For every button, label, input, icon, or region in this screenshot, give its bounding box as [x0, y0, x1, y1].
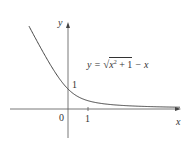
- y-axis-arrow-icon: [66, 22, 70, 28]
- eq-lhs: y =: [87, 59, 103, 70]
- origin-label: 0: [59, 113, 64, 123]
- eq-tail: − x: [132, 59, 148, 70]
- eq-plus-one: + 1: [117, 59, 133, 70]
- y-tick-1-label: 1: [72, 80, 77, 90]
- eq-radicand: x2 + 1: [109, 57, 132, 70]
- equation-label: y = √x2 + 1 − x: [87, 59, 149, 70]
- x-tick-1-label: 1: [85, 114, 90, 124]
- x-axis-label: x: [176, 117, 180, 127]
- plot-canvas: [0, 0, 193, 146]
- y-axis-label: y: [58, 18, 62, 28]
